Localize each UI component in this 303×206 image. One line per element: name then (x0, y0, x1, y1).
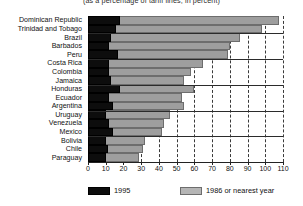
bar-1995 (88, 33, 111, 42)
bar-1995 (88, 50, 118, 59)
bar-1995 (88, 93, 109, 102)
y-axis-label: Uruguay (55, 111, 82, 119)
x-tick-label-110: 110 (273, 165, 293, 172)
y-axis-label: Chile (66, 145, 82, 153)
gridline-110 (283, 16, 284, 162)
bar-1995 (88, 85, 120, 94)
black-swatch-icon (88, 187, 110, 195)
band-rule (88, 136, 283, 137)
bar-1995 (88, 128, 113, 137)
y-axis-label: Honduras (51, 85, 82, 93)
y-axis-label: Costa Rica (47, 59, 82, 67)
bar-group (88, 16, 283, 25)
bar-group (88, 136, 283, 145)
y-axis-label: Trinidad and Tobago (18, 25, 82, 33)
bar-1995 (88, 145, 108, 154)
band-rule (88, 59, 283, 60)
bar-group (88, 33, 283, 42)
y-axis-label: Paraguay (52, 154, 82, 162)
bar-group (88, 102, 283, 111)
chart-legend: 1995 1986 or nearest year (0, 186, 303, 202)
legend-item-1986: 1986 or nearest year (180, 186, 274, 195)
y-axis-label: Venezuela (49, 119, 82, 127)
band-rule (88, 85, 283, 86)
bar-chart: (as a percentage of tariff lines, in per… (0, 0, 303, 206)
x-axis-line (88, 162, 284, 163)
y-axis-label: Bolivia (61, 137, 82, 145)
bar-group (88, 119, 283, 128)
bar-1986 (88, 42, 230, 51)
bar-group (88, 25, 283, 34)
y-axis-label: Ecuador (56, 94, 82, 102)
bar-1995 (88, 42, 109, 51)
bar-group (88, 110, 283, 119)
bar-group (88, 50, 283, 59)
band-rule (88, 33, 283, 34)
y-axis-labels: Dominican RepublicTrinidad and TobagoBra… (0, 16, 85, 162)
y-axis-label: Brazil (64, 34, 82, 42)
bar-group (88, 68, 283, 77)
y-axis-label: Argentina (52, 102, 82, 110)
y-axis-label: Jamaica (56, 77, 82, 85)
bar-group (88, 76, 283, 85)
y-axis-label: Dominican Republic (19, 16, 82, 24)
y-axis-label: Barbados (52, 42, 82, 50)
bar-1995 (88, 25, 116, 34)
bar-group (88, 128, 283, 137)
y-axis-label: Colombia (52, 68, 82, 76)
bar-1995 (88, 68, 109, 77)
bar-1995 (88, 110, 106, 119)
legend-label-1986: 1986 or nearest year (206, 186, 274, 195)
bar-group (88, 59, 283, 68)
bar-group (88, 145, 283, 154)
bar-1995 (88, 102, 113, 111)
y-axis-label: Peru (67, 51, 82, 59)
y-axis-label: Mexico (60, 128, 82, 136)
gray-swatch-icon (180, 187, 202, 195)
legend-item-1995: 1995 (88, 186, 130, 195)
bar-1995 (88, 119, 109, 128)
bar-1995 (88, 136, 106, 145)
bar-1995 (88, 76, 111, 85)
legend-label-1995: 1995 (114, 186, 130, 195)
band-rule (88, 111, 283, 112)
bar-group (88, 85, 283, 94)
bar-group (88, 42, 283, 51)
bar-1995 (88, 153, 106, 162)
bar-1995 (88, 59, 109, 68)
plot-area (88, 16, 283, 162)
bar-group (88, 153, 283, 162)
bar-1995 (88, 16, 120, 25)
chart-title: (as a percentage of tariff lines, in per… (0, 0, 303, 5)
bar-group (88, 93, 283, 102)
